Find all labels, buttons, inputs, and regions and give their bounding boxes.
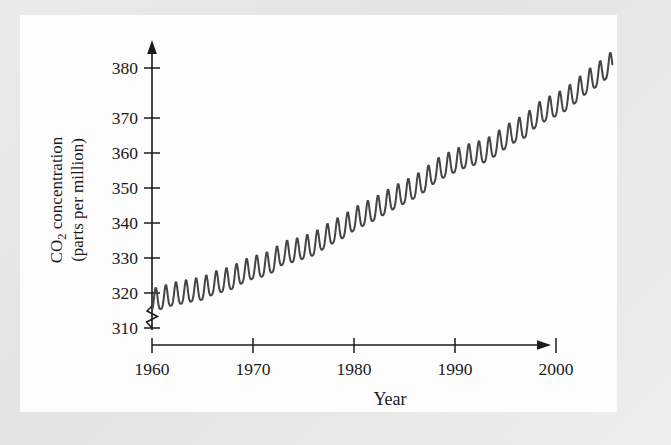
svg-text:CO2 concentration: CO2 concentration xyxy=(47,136,69,263)
y-tick-label-350: 350 xyxy=(112,178,139,198)
y-tick-label-340: 340 xyxy=(112,213,139,233)
y-tick-label-320: 320 xyxy=(112,283,139,303)
x-tick-label-2000: 2000 xyxy=(539,359,574,379)
x-tick-label-1970: 1970 xyxy=(236,359,271,379)
y-tick-label-370: 370 xyxy=(112,108,139,128)
chart-svg: 310 320 330 340 350 360 370 380 1960 xyxy=(20,15,617,412)
figure-panel: 310 320 330 340 350 360 370 380 1960 xyxy=(20,15,617,412)
x-axis-title: Year xyxy=(373,389,406,409)
y-axis-title-line2: (parts per million) xyxy=(68,138,87,262)
x-tick-label-1960: 1960 xyxy=(135,359,170,379)
y-axis-title-rest: concentration xyxy=(47,136,66,233)
y-axis-title-co2: CO xyxy=(47,240,66,264)
co2-line-chart: 310 320 330 340 350 360 370 380 1960 xyxy=(20,15,617,412)
plot-background xyxy=(20,15,617,412)
x-tick-label-1990: 1990 xyxy=(438,359,473,379)
figure-background: 310 320 330 340 350 360 370 380 1960 xyxy=(0,0,671,445)
y-tick-label-330: 330 xyxy=(112,248,139,268)
y-tick-label-360: 360 xyxy=(112,143,139,163)
x-tick-label-1980: 1980 xyxy=(337,359,372,379)
y-tick-label-380: 380 xyxy=(112,58,139,78)
y-tick-label-310: 310 xyxy=(112,318,139,338)
